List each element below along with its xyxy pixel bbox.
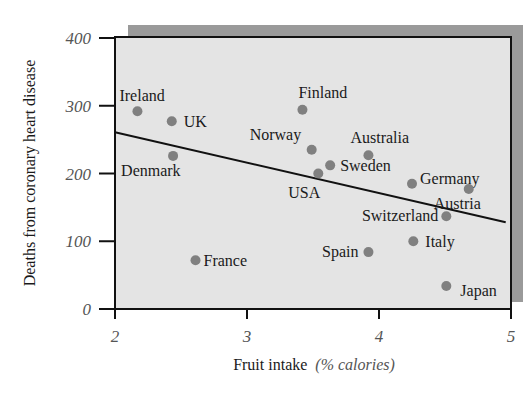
point-marker (168, 151, 178, 161)
point-label: Ireland (119, 87, 164, 104)
point-marker (132, 106, 142, 116)
point-label: Japan (460, 282, 496, 300)
point-label: Sweden (340, 157, 391, 174)
point-label: UK (184, 113, 208, 130)
x-axis-title-main: Fruit intake (233, 356, 307, 373)
point-marker (363, 150, 373, 160)
y-axis-title: Deaths from coronary heart disease (21, 60, 39, 287)
y-tick-label: 0 (83, 300, 92, 319)
y-tick-label: 100 (66, 232, 92, 251)
point-marker (167, 116, 177, 126)
point-label: Italy (425, 233, 454, 251)
y-tick-label: 400 (66, 29, 92, 48)
y-tick-label: 300 (65, 97, 92, 116)
point-label: Norway (250, 126, 302, 144)
point-marker (441, 211, 451, 221)
scatter-chart: 0100200300400 2345 IrelandUKDenmarkFranc… (0, 0, 531, 393)
point-marker (325, 160, 335, 170)
point-marker (191, 255, 201, 265)
point-label: Spain (322, 243, 358, 261)
x-axis: 2345 (111, 309, 516, 346)
point-marker (307, 145, 317, 155)
point-label: Finland (298, 84, 347, 101)
point-marker (464, 184, 474, 194)
x-tick-label: 3 (242, 327, 252, 346)
point-marker (363, 247, 373, 257)
point-marker (441, 281, 451, 291)
point-label: Australia (350, 129, 409, 146)
x-axis-title: Fruit intake (% calories) (233, 356, 395, 374)
point-marker (407, 179, 417, 189)
point-label: Switzerland (362, 207, 438, 224)
x-tick-label: 5 (507, 327, 516, 346)
x-tick-label: 2 (111, 327, 120, 346)
y-tick-label: 200 (66, 165, 92, 184)
point-label: France (204, 252, 248, 269)
y-axis: 0100200300400 (65, 29, 116, 319)
point-marker (297, 105, 307, 115)
x-tick-label: 4 (375, 327, 384, 346)
x-axis-title-unit: (% calories) (315, 356, 395, 374)
point-label: Denmark (121, 162, 181, 179)
point-label: Austria (434, 195, 481, 212)
point-label: USA (288, 184, 320, 201)
point-marker (408, 236, 418, 246)
point-marker (313, 169, 323, 179)
